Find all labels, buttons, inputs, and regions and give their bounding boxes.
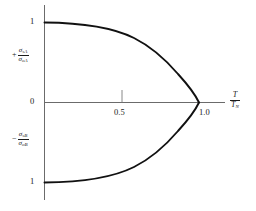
- x-tick-label-half: 0.5: [114, 108, 125, 117]
- y-axis-upper-denominator: σoA: [18, 55, 29, 64]
- y-axis-upper-numerator: σsA: [18, 47, 28, 55]
- x-tick-label-one: 1.0: [199, 108, 210, 117]
- y-axis-lower-denominator-subscript: oB: [22, 142, 28, 147]
- y-tick-label-zero: 0: [30, 97, 34, 106]
- y-axis-lower-sign: −: [12, 135, 17, 143]
- x-axis-label: T TN: [230, 91, 240, 110]
- y-axis-label-upper: + σsA σoA: [12, 47, 29, 64]
- y-axis-upper-sign: +: [12, 51, 17, 59]
- x-axis-fraction: T TN: [230, 91, 240, 110]
- y-tick-label-top-one: 1: [30, 17, 34, 26]
- y-axis-label-lower: − σsB σoB: [12, 131, 29, 148]
- y-axis-lower-denominator: σoB: [18, 139, 29, 148]
- y-axis-upper-fraction: σsA σoA: [18, 47, 29, 64]
- x-axis-denominator: TN: [230, 100, 240, 110]
- y-tick-label-bottom-one: 1: [30, 177, 34, 186]
- y-axis-lower-numerator: σsB: [18, 131, 28, 139]
- figure-canvas: 1 0 1 0.5 1.0 + σsA σoA − σsB σoB T TN: [0, 0, 256, 211]
- y-axis-upper-numerator-subscript: sA: [22, 49, 27, 54]
- y-axis-lower-fraction: σsB σoB: [18, 131, 29, 148]
- x-axis-numerator: T: [232, 91, 238, 100]
- temperature-glyph-numerator: T: [233, 90, 237, 99]
- y-axis-upper-denominator-subscript: oA: [22, 58, 28, 63]
- x-axis-denominator-subscript: N: [235, 104, 238, 109]
- plot-area: [0, 0, 256, 211]
- y-axis-lower-numerator-subscript: sB: [22, 133, 27, 138]
